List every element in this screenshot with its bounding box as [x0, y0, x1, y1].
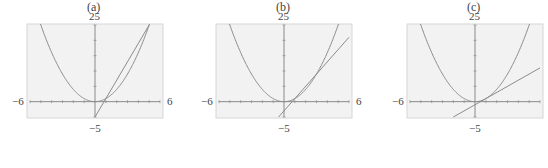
x-max-label: 6	[167, 95, 173, 107]
x-min-label: −6	[392, 95, 404, 107]
chart-panel-1: 25−5−66(a)	[0, 0, 180, 168]
chart-panel-2: 25−5−66(b)	[189, 0, 369, 168]
x-max-label: 6	[356, 95, 362, 107]
chart-panel-3: 25−5−6(c)	[380, 0, 548, 168]
y-min-label: −5	[89, 122, 101, 134]
panel-caption: (a)	[87, 0, 100, 15]
x-min-label: −6	[201, 95, 213, 107]
panel-caption: (c)	[467, 0, 480, 15]
plot-area	[380, 0, 548, 168]
panel-caption: (b)	[276, 0, 290, 15]
plot-area	[189, 0, 369, 168]
y-min-label: −5	[278, 122, 290, 134]
y-min-label: −5	[469, 122, 481, 134]
plot-area	[0, 0, 180, 168]
x-min-label: −6	[12, 95, 24, 107]
